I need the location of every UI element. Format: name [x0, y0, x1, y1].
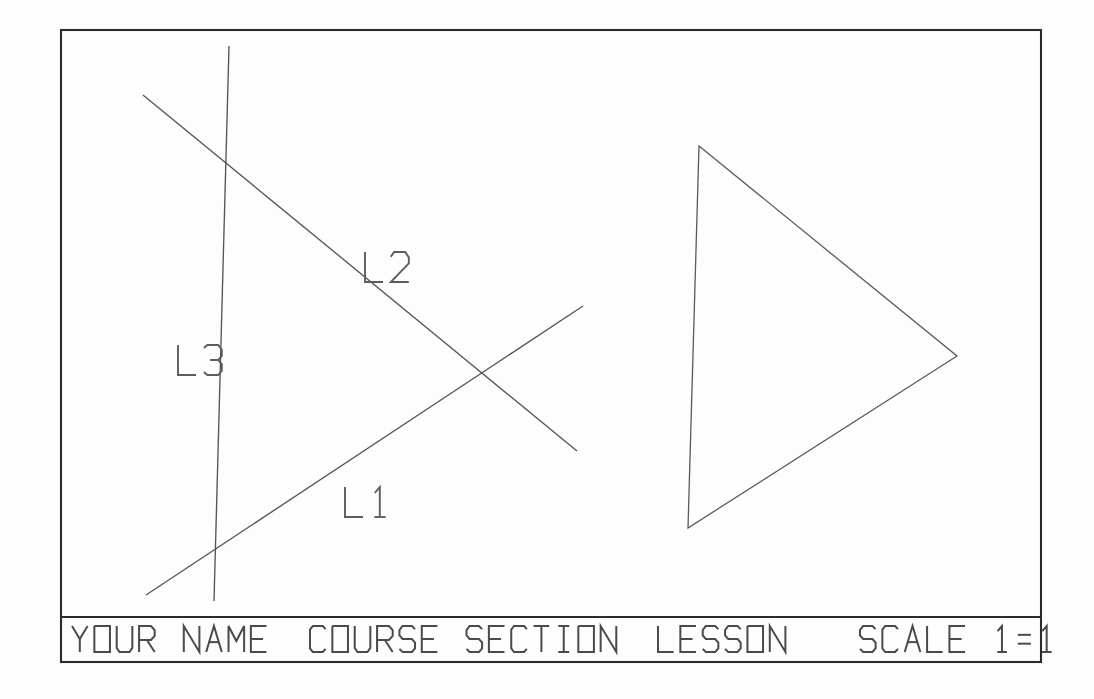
line-label-l2	[365, 252, 409, 282]
title-field-scale	[860, 626, 1052, 652]
glyph-l	[927, 626, 943, 652]
glyph-1	[998, 626, 1002, 652]
triangle-group	[688, 146, 957, 528]
glyph-r	[147, 640, 155, 652]
glyph-c	[882, 626, 898, 652]
glyph-u	[355, 626, 371, 652]
glyph-o	[578, 626, 594, 652]
glyph-a	[905, 626, 921, 652]
line-l2	[143, 95, 577, 451]
drawing-sheet	[0, 0, 1094, 699]
border-rectangle	[61, 30, 1041, 662]
glyph-s	[467, 626, 483, 652]
glyph-c	[310, 626, 326, 652]
glyph-s	[399, 626, 415, 652]
glyph-u	[117, 626, 133, 652]
line-label-l1	[345, 487, 386, 517]
glyph-s	[725, 626, 741, 652]
glyph-3	[204, 360, 222, 375]
glyph-o	[94, 626, 110, 652]
line-label-l3	[178, 345, 222, 375]
glyph-o	[747, 626, 763, 652]
glyph-1	[375, 487, 380, 517]
glyph-o	[332, 626, 348, 652]
glyph-2	[391, 252, 409, 282]
glyph-l	[658, 626, 674, 652]
glyph-s	[860, 626, 876, 652]
glyph-r	[385, 640, 393, 652]
glyph-n	[770, 626, 786, 652]
title-field-name	[72, 626, 266, 652]
glyph-y	[72, 626, 88, 639]
glyph-1	[1042, 626, 1046, 652]
line-label-group	[178, 252, 409, 517]
glyph-m	[229, 626, 245, 652]
title-field-course	[310, 626, 616, 652]
glyph-3	[204, 345, 222, 360]
glyph-n	[601, 626, 617, 652]
glyph-s	[703, 626, 719, 652]
glyph-l	[345, 487, 363, 517]
drawing-border	[61, 30, 1041, 662]
glyph-a	[206, 626, 222, 652]
glyph-c	[511, 626, 527, 652]
line-l3	[214, 46, 229, 601]
title-field-lesson	[658, 626, 785, 652]
glyph-l	[178, 345, 196, 375]
line-l1	[146, 306, 583, 595]
glyph-l	[365, 252, 383, 282]
triangle-outline	[688, 146, 957, 528]
glyph-n	[184, 626, 200, 652]
title-block-text-group	[72, 626, 1052, 652]
drawing-canvas	[0, 0, 1094, 699]
